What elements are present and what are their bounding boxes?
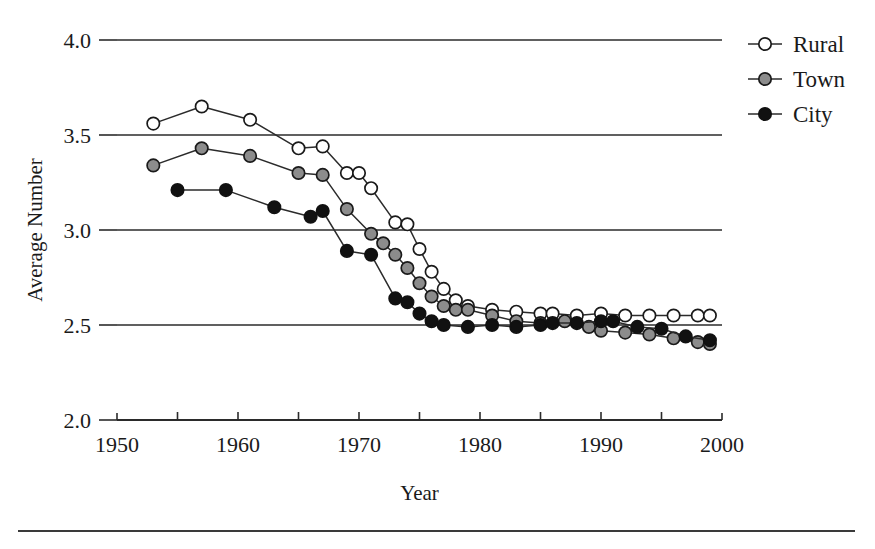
data-point-rural-1994 — [643, 309, 655, 321]
y-tick-label-2: 2.0 — [64, 408, 92, 433]
y-tick-label-3: 3.0 — [64, 218, 92, 243]
legend-marker-black-circle-icon — [759, 108, 771, 120]
x-tick-label-1970: 1970 — [337, 432, 381, 457]
data-point-town-1957 — [196, 142, 208, 154]
data-point-city-1986 — [546, 317, 558, 329]
data-point-rural-1967 — [317, 140, 329, 152]
data-point-rural-1977 — [438, 283, 450, 295]
data-point-city-1999 — [704, 334, 716, 346]
data-point-rural-1973 — [389, 216, 401, 228]
legend-marker-gray-circle-icon — [759, 73, 771, 85]
data-point-rural-1975 — [413, 243, 425, 255]
data-point-rural-1999 — [704, 309, 716, 321]
legend-label-city: City — [793, 102, 833, 127]
data-point-rural-1957 — [196, 100, 208, 112]
data-point-city-1997 — [680, 330, 692, 342]
data-point-rural-1974 — [401, 218, 413, 230]
data-point-town-1969 — [341, 203, 353, 215]
data-point-town-1973 — [389, 249, 401, 261]
y-axis-title: Average Number — [23, 158, 47, 302]
data-point-town-1965 — [292, 167, 304, 179]
x-tick-label-2000: 2000 — [700, 432, 744, 457]
data-point-town-1994 — [643, 328, 655, 340]
line-chart: 2.02.53.03.54.0195019601970198019902000Y… — [0, 0, 875, 549]
data-point-city-1977 — [438, 319, 450, 331]
legend-item-rural[interactable]: Rural — [748, 32, 844, 57]
legend: RuralTownCity — [748, 32, 846, 127]
figure-container: 2.02.53.03.54.0195019601970198019902000Y… — [0, 0, 875, 549]
data-point-town-1978 — [450, 304, 462, 316]
data-point-city-1981 — [486, 319, 498, 331]
data-point-city-1974 — [401, 296, 413, 308]
data-point-town-1992 — [619, 326, 631, 338]
data-point-town-1961 — [244, 150, 256, 162]
data-point-city-1988 — [571, 317, 583, 329]
data-point-city-1963 — [268, 201, 280, 213]
legend-item-town[interactable]: Town — [748, 67, 846, 92]
data-point-town-1976 — [425, 290, 437, 302]
data-point-rural-1998 — [692, 309, 704, 321]
y-tick-label-4: 4.0 — [64, 28, 92, 53]
data-point-rural-1971 — [365, 182, 377, 194]
data-point-city-1985 — [534, 319, 546, 331]
x-axis-title: Year — [400, 481, 439, 505]
legend-label-town: Town — [793, 67, 846, 92]
data-point-city-1979 — [462, 321, 474, 333]
data-point-city-1966 — [304, 211, 316, 223]
y-tick-label-2.5: 2.5 — [64, 313, 92, 338]
data-point-rural-1953 — [147, 117, 159, 129]
data-point-city-1991 — [607, 315, 619, 327]
data-point-town-1975 — [413, 277, 425, 289]
data-point-town-1972 — [377, 237, 389, 249]
series-line-rural — [153, 107, 710, 316]
data-point-rural-1961 — [244, 114, 256, 126]
data-point-rural-1970 — [353, 167, 365, 179]
data-point-town-1979 — [462, 304, 474, 316]
series-rural — [147, 100, 716, 321]
data-point-town-1971 — [365, 228, 377, 240]
data-point-town-1967 — [317, 169, 329, 181]
legend-label-rural: Rural — [793, 32, 844, 57]
data-point-city-1976 — [425, 315, 437, 327]
data-point-city-1993 — [631, 321, 643, 333]
x-tick-label-1950: 1950 — [95, 432, 139, 457]
data-point-rural-1976 — [425, 266, 437, 278]
y-tick-label-3.5: 3.5 — [64, 123, 92, 148]
data-point-city-1969 — [341, 245, 353, 257]
legend-marker-open-circle-icon — [759, 38, 771, 50]
data-point-city-1990 — [595, 315, 607, 327]
x-tick-label-1980: 1980 — [458, 432, 502, 457]
data-point-city-1983 — [510, 321, 522, 333]
data-point-city-1973 — [389, 292, 401, 304]
data-point-town-1953 — [147, 159, 159, 171]
data-point-rural-1969 — [341, 167, 353, 179]
x-tick-label-1990: 1990 — [579, 432, 623, 457]
data-series-group — [147, 100, 716, 350]
data-point-city-1971 — [365, 249, 377, 261]
data-point-town-1977 — [438, 300, 450, 312]
data-point-town-1974 — [401, 262, 413, 274]
data-point-rural-1992 — [619, 309, 631, 321]
data-point-city-1967 — [317, 205, 329, 217]
data-point-city-1959 — [220, 184, 232, 196]
data-point-city-1955 — [171, 184, 183, 196]
legend-item-city[interactable]: City — [748, 102, 833, 127]
data-point-town-1987 — [559, 315, 571, 327]
tick-labels: 2.02.53.03.54.0195019601970198019902000 — [64, 28, 745, 457]
data-point-city-1975 — [413, 307, 425, 319]
data-point-rural-1965 — [292, 142, 304, 154]
series-city — [171, 184, 716, 346]
data-point-rural-1996 — [667, 309, 679, 321]
data-point-city-1995 — [655, 323, 667, 335]
x-tick-label-1960: 1960 — [216, 432, 260, 457]
